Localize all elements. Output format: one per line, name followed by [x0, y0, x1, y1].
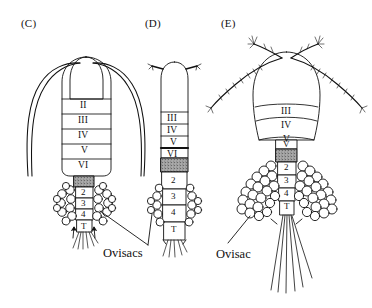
panel-e-antennae-setae — [206, 36, 367, 113]
panel-c-segment-IV: IV — [78, 130, 88, 140]
panel-e-narrow-segment-label: V — [283, 139, 290, 149]
panel-d-segment-IV: IV — [167, 125, 177, 135]
panel-d-genital-block — [161, 158, 188, 172]
panel-e-ovisac-right — [294, 161, 337, 221]
panel-d-segment-VI: VI — [167, 149, 177, 159]
panel-d-segment-V: V — [170, 137, 177, 147]
panel-d-ovisac-right — [185, 184, 202, 226]
panel-e-segment-IV: IV — [281, 120, 291, 130]
leader-line-e — [228, 216, 250, 243]
panel-c-ovisac-left — [53, 182, 76, 225]
leader-line-d — [148, 214, 152, 245]
panel-d-antennae — [152, 66, 197, 69]
panel-c-urosome-T: T — [81, 221, 87, 231]
panel-e-urosome-3: 3 — [284, 175, 289, 185]
panel-label-e: (E) — [221, 17, 236, 29]
panel-c-urosome-4: 4 — [81, 209, 86, 219]
copepod-ovisac-figure — [0, 0, 372, 308]
panel-e-urosome-T: T — [284, 201, 290, 211]
panel-c-urosome-2: 2 — [81, 187, 86, 197]
panel-label-d: (D) — [145, 17, 161, 29]
callout-ovisac: Ovisac — [216, 247, 251, 262]
panel-e-ovisac-left — [237, 161, 280, 221]
panel-c-segment-VI: VI — [78, 160, 88, 170]
panel-d-urosome-4: 4 — [171, 207, 176, 217]
panel-d-urosome-3: 3 — [171, 191, 176, 201]
panel-d-urosome-2: 2 — [171, 175, 176, 185]
panel-d-caudal-setae — [163, 240, 187, 257]
leader-line-c — [100, 211, 148, 245]
panel-e-segment-III: III — [281, 106, 291, 116]
panel-c-ovisac-right — [93, 182, 116, 225]
panel-e-urosome-4: 4 — [284, 188, 289, 198]
panel-d-ovisac-left — [147, 184, 164, 226]
panel-c-genital-block — [74, 176, 94, 187]
panel-e-caudal-setae — [271, 215, 312, 293]
panel-c-segment-III: III — [78, 115, 88, 125]
panel-c-urosome-3: 3 — [81, 198, 86, 208]
panel-label-c: (C) — [21, 17, 36, 29]
panel-c-head — [70, 57, 103, 99]
panel-c-segment-V: V — [81, 145, 88, 155]
panel-c-segment-II: II — [80, 100, 87, 110]
panel-d-segment-III: III — [167, 113, 177, 123]
panel-e-genital-block — [276, 149, 297, 162]
panel-d-urosome-T: T — [171, 224, 177, 234]
panel-e-antennae — [211, 44, 362, 108]
panel-e-urosome-2: 2 — [284, 162, 289, 172]
callout-ovisacs: Ovisacs — [103, 246, 143, 261]
